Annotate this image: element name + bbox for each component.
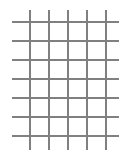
grid-line-horizontal-1 xyxy=(12,21,119,23)
grid-line-vertical-1 xyxy=(29,10,31,150)
grid-line-horizontal-7 xyxy=(12,135,119,137)
grid-line-vertical-3 xyxy=(67,10,69,150)
grid-line-horizontal-6 xyxy=(12,116,119,118)
grid-line-horizontal-2 xyxy=(12,40,119,42)
grid-line-horizontal-3 xyxy=(12,59,119,61)
grid-line-horizontal-4 xyxy=(12,78,119,80)
grid-line-horizontal-5 xyxy=(12,97,119,99)
grid-line-vertical-4 xyxy=(86,10,88,150)
grid-line-vertical-2 xyxy=(48,10,50,150)
grid-canvas xyxy=(0,0,132,158)
grid-line-vertical-5 xyxy=(105,10,107,150)
